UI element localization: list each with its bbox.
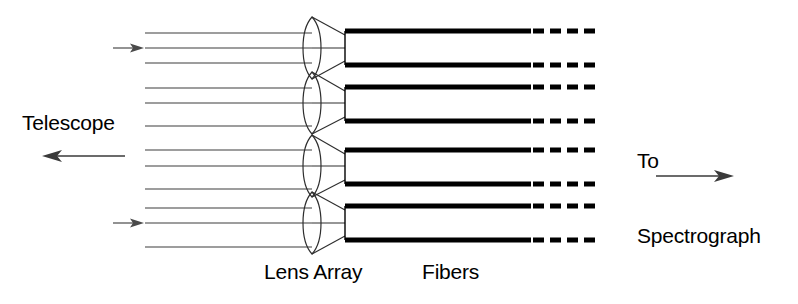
- label-to-spectrograph-line1: To: [637, 148, 761, 173]
- ray-direction-arrow: [113, 44, 144, 53]
- fiber-group: [345, 31, 600, 240]
- label-telescope: Telescope: [22, 110, 115, 135]
- fiber: [345, 31, 600, 65]
- telescope-direction-arrow: [42, 150, 125, 162]
- label-to-spectrograph: To Spectrograph: [637, 98, 761, 298]
- converging-ray: [312, 135, 345, 154]
- label-to-spectrograph-line2: Spectrograph: [637, 223, 761, 248]
- incoming-ray-group: [145, 33, 312, 247]
- converging-ray: [312, 72, 345, 91]
- label-fibers: Fibers: [422, 259, 479, 284]
- converging-beam-group: [312, 17, 345, 254]
- fiber-lens-array-diagram: Telescope To Spectrograph Lens Array Fib…: [0, 0, 798, 304]
- fiber: [345, 206, 600, 240]
- ray-direction-arrow: [113, 219, 144, 228]
- fiber: [345, 150, 598, 184]
- fiber: [345, 87, 598, 121]
- label-lens-array: Lens Array: [264, 259, 362, 284]
